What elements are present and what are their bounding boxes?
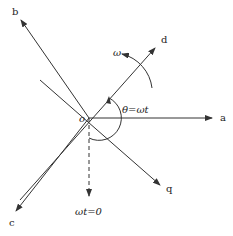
axis-a-label: a <box>220 112 226 123</box>
angle-label: θ=ωt <box>122 104 150 115</box>
axis-b-label: b <box>12 6 18 17</box>
axis-d-label: d <box>161 34 168 45</box>
axis-c <box>16 118 89 211</box>
reference-label: ωt=0 <box>75 206 103 217</box>
theta-arc-arrowhead <box>106 96 111 104</box>
axis-b <box>21 20 89 118</box>
axis-d <box>20 48 155 200</box>
axis-q <box>40 80 160 185</box>
omega-label: ω <box>113 47 121 58</box>
axis-q-label: q <box>166 183 173 194</box>
park-transform-diagram: o a b c d q ω θ=ωt ωt=0 <box>0 0 233 236</box>
origin-label: o <box>79 113 85 124</box>
omega-arc <box>122 54 152 88</box>
axis-c-label: c <box>9 217 15 228</box>
